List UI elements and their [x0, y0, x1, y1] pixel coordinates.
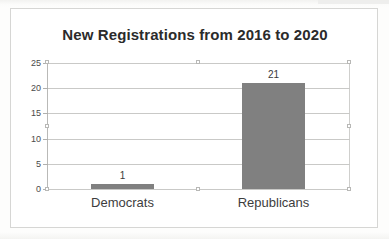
y-axis-tick-label: 20	[15, 83, 41, 93]
bar-value-label: 1	[120, 170, 126, 181]
selection-handle-top-right[interactable]	[347, 60, 351, 64]
selection-handle-middle-right[interactable]	[347, 124, 351, 128]
y-axis-tick	[43, 113, 48, 114]
category-label-democrats: Democrats	[91, 195, 154, 210]
y-axis-tick-label: 15	[15, 108, 41, 118]
y-axis-tick-label: 5	[15, 159, 41, 169]
chart-title: New Registrations from 2016 to 2020	[11, 26, 379, 43]
y-axis-tick	[43, 139, 48, 140]
selection-handle-bottom-right[interactable]	[347, 187, 351, 191]
y-axis-tick-label: 10	[15, 134, 41, 144]
bar-value-label: 21	[268, 69, 279, 80]
bar-democrats[interactable]	[91, 184, 154, 189]
category-label-republicans: Republicans	[238, 195, 310, 210]
y-axis-tick	[43, 164, 48, 165]
bar-republicans[interactable]	[242, 83, 305, 189]
y-axis-tick-label: 25	[15, 58, 41, 68]
selection-handle-top-left[interactable]	[45, 60, 49, 64]
chart-frame[interactable]: New Registrations from 2016 to 2020 2520…	[10, 8, 378, 228]
scan-artifact-bottom	[0, 232, 389, 239]
selection-handle-bottom-center[interactable]	[196, 187, 200, 191]
scan-artifact-top-right	[318, 0, 389, 4]
selection-handle-top-center[interactable]	[196, 60, 200, 64]
y-axis-tick-label: 0	[15, 184, 41, 194]
selection-handle-middle-left[interactable]	[45, 124, 49, 128]
chart-screenshot: New Registrations from 2016 to 2020 2520…	[0, 0, 389, 239]
selection-handle-bottom-left[interactable]	[45, 187, 49, 191]
y-axis-tick	[43, 88, 48, 89]
